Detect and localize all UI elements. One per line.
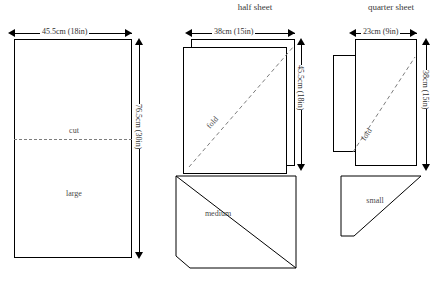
quarter-sheet-height-label: 38cm (15in) bbox=[421, 70, 430, 109]
sheet-cutting-diagram: 45.5cm (18in) cut large 76.5cm (30in) ha… bbox=[0, 0, 440, 289]
small-piece-fill bbox=[341, 176, 421, 236]
quarter-sheet-overlay bbox=[0, 0, 440, 289]
small-piece-label: small bbox=[355, 196, 395, 205]
quarter-height-arrow-up-icon bbox=[422, 38, 430, 45]
quarter-height-arrow-down-icon bbox=[422, 164, 430, 171]
